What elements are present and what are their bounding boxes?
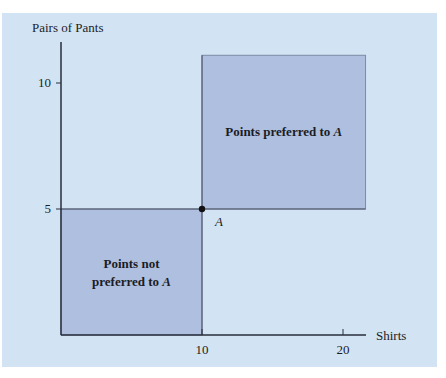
- region-label-not-preferred-point: A: [161, 274, 171, 289]
- point-A: [199, 206, 205, 212]
- region-label-not-preferred-line1: Points not: [104, 256, 161, 271]
- x-tick-label: 10: [196, 342, 209, 357]
- region-label-not-preferred-line2: preferred to A: [92, 274, 171, 289]
- y-tick-label: 10: [38, 75, 51, 90]
- y-tick-label: 5: [45, 201, 52, 216]
- region-label-preferred-text: Points preferred to: [225, 124, 330, 139]
- x-tick-label: 20: [337, 342, 350, 357]
- point-label: A: [214, 214, 223, 229]
- region-label-preferred: Points preferred to A: [225, 124, 342, 139]
- region-label-preferred-point: A: [333, 124, 343, 139]
- x-axis-label: Shirts: [376, 328, 406, 343]
- y-axis-label: Pairs of Pants: [32, 20, 104, 35]
- region-not-preferred: [61, 209, 202, 335]
- region-label-not-preferred-text: preferred to: [92, 274, 159, 289]
- chart: 1020510 Pairs of Pants Shirts Points pre…: [0, 0, 446, 378]
